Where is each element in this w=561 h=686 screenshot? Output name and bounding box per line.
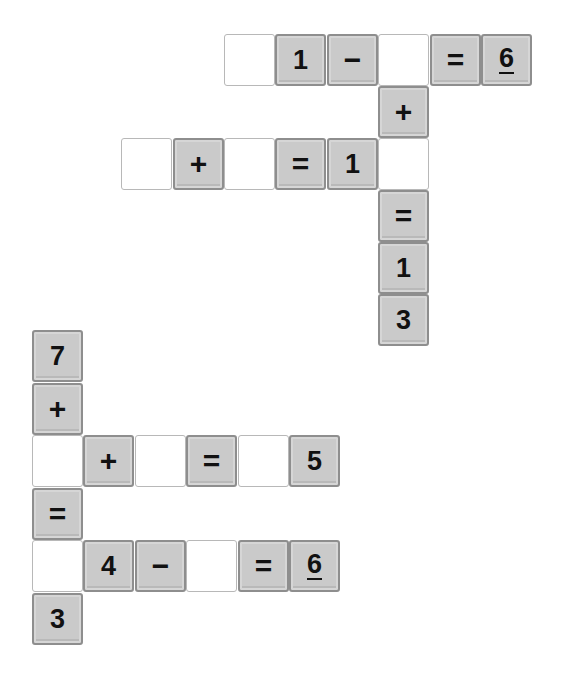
number-tile: 3	[378, 294, 429, 346]
operator-glyph: =	[395, 201, 413, 231]
number-tile: 6	[481, 34, 532, 86]
digit-glyph: 1	[345, 151, 360, 178]
answer-cell[interactable]	[238, 435, 289, 487]
operator-glyph: =	[447, 45, 465, 75]
number-tile: 3	[32, 593, 83, 645]
operator-glyph: =	[49, 499, 67, 529]
number-tile: 5	[289, 435, 340, 487]
number-tile: 6	[289, 540, 340, 592]
digit-glyph: 3	[50, 606, 65, 633]
operator-tile: =	[238, 540, 289, 592]
operator-tile: +	[32, 383, 83, 435]
operator-tile: +	[378, 86, 429, 138]
answer-cell[interactable]	[224, 138, 275, 190]
operator-tile: =	[186, 435, 237, 487]
number-tile: 7	[32, 330, 83, 382]
answer-cell[interactable]	[378, 138, 429, 190]
digit-glyph: 1	[396, 255, 411, 282]
operator-tile: =	[430, 34, 481, 86]
number-tile: 1	[327, 138, 378, 190]
answer-cell[interactable]	[121, 138, 172, 190]
answer-cell[interactable]	[32, 540, 83, 592]
operator-glyph: −	[152, 551, 170, 581]
operator-glyph: +	[395, 97, 413, 127]
crossmath-board: 1−=6++=1=137++=5=4−=63	[0, 0, 561, 686]
digit-glyph: 6	[307, 552, 322, 581]
operator-tile: =	[378, 190, 429, 242]
answer-cell[interactable]	[378, 34, 429, 86]
number-tile: 4	[83, 540, 134, 592]
operator-tile: −	[135, 540, 186, 592]
operator-glyph: +	[49, 394, 67, 424]
digit-glyph: 7	[50, 343, 65, 370]
answer-cell[interactable]	[135, 435, 186, 487]
operator-glyph: +	[100, 446, 118, 476]
operator-glyph: +	[190, 149, 208, 179]
digit-glyph: 4	[101, 553, 116, 580]
operator-glyph: =	[203, 446, 221, 476]
answer-cell[interactable]	[186, 540, 237, 592]
digit-glyph: 3	[396, 307, 411, 334]
number-tile: 1	[275, 34, 326, 86]
operator-tile: +	[173, 138, 224, 190]
operator-tile: −	[327, 34, 378, 86]
answer-cell[interactable]	[224, 34, 275, 86]
answer-cell[interactable]	[32, 435, 83, 487]
operator-tile: =	[275, 138, 326, 190]
operator-glyph: =	[255, 551, 273, 581]
operator-tile: =	[32, 488, 83, 540]
digit-glyph: 5	[307, 448, 322, 475]
operator-tile: +	[83, 435, 134, 487]
operator-glyph: −	[344, 45, 362, 75]
number-tile: 1	[378, 242, 429, 294]
digit-glyph: 6	[499, 46, 514, 75]
operator-glyph: =	[292, 149, 310, 179]
digit-glyph: 1	[293, 47, 308, 74]
